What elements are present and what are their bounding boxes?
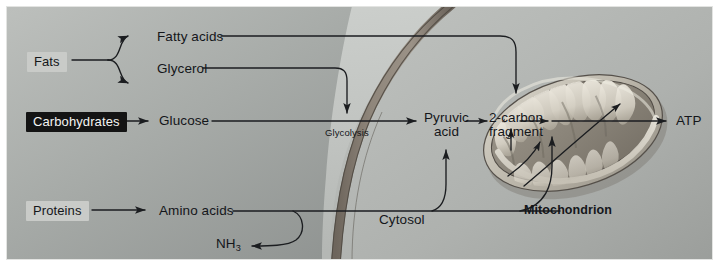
node-label-glucose: Glucose xyxy=(159,113,209,128)
node-label-fatty-acids: Fatty acids xyxy=(157,29,223,44)
pyruvic-acid-line-2: acid xyxy=(424,125,469,139)
compartment-label-mitochondrion: Mitochondrion xyxy=(524,203,612,217)
node-label-ammonia: NH3 xyxy=(216,236,241,251)
ammonia-formula-subscript: 3 xyxy=(236,243,241,253)
cellular-respiration-diagram xyxy=(0,0,719,278)
ammonia-formula-base: NH xyxy=(216,236,236,251)
pyruvic-acid-line-1: Pyruvic xyxy=(424,111,469,125)
compartment-label-cytosol: Cytosol xyxy=(379,212,425,227)
carbohydrates-chip: Carbohydrates xyxy=(26,112,127,132)
node-label-two-carbon-fragment: 2-carbon fragment xyxy=(489,111,543,140)
node-label-proteins: Proteins xyxy=(26,201,89,219)
node-label-atp: ATP xyxy=(676,113,702,128)
fats-chip: Fats xyxy=(27,52,67,72)
node-label-fats: Fats xyxy=(27,52,67,70)
two-carbon-fragment-line-2: fragment xyxy=(489,125,543,139)
node-label-pyruvic-acid: Pyruvic acid xyxy=(424,111,469,140)
proteins-chip: Proteins xyxy=(26,201,89,221)
node-label-amino-acids: Amino acids xyxy=(159,203,234,218)
figure-root: Fats Fatty acids Glycerol Carbohydrates … xyxy=(0,0,719,278)
node-label-carbohydrates: Carbohydrates xyxy=(26,112,127,130)
two-carbon-fragment-line-1: 2-carbon xyxy=(489,111,543,125)
node-label-glycolysis: Glycolysis xyxy=(325,128,369,139)
node-label-glycerol: Glycerol xyxy=(157,61,207,76)
